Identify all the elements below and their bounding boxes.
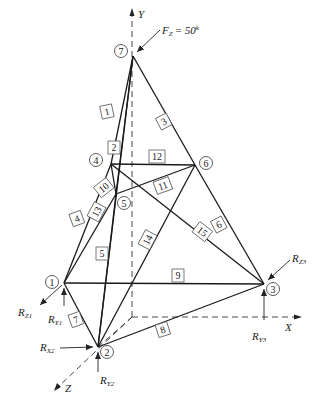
member-labels: 1 2 3 4 5 6 7 8 9 10 11 12 13 14 15 — [68, 104, 227, 338]
node-label-3: 3 — [271, 284, 276, 295]
member-label-5: 5 — [100, 248, 105, 259]
reaction-rz3-label: RZ3 — [291, 252, 307, 266]
reaction-ry3-label: RY3 — [251, 330, 267, 344]
reaction-ry2-label: RY2 — [99, 374, 115, 388]
load-label: FZ= 50k — [161, 24, 200, 38]
space-truss-diagram: Y X Z 1 2 3 4 5 6 7 8 9 10 11 12 13 — [0, 0, 323, 409]
x-axis-label: X — [284, 321, 293, 333]
members — [64, 56, 264, 347]
member-label-9: 9 — [176, 270, 181, 281]
node-label-4: 4 — [94, 155, 99, 166]
reaction-ry1-label: RY1 — [47, 313, 62, 327]
z-axis — [58, 317, 132, 387]
z-axis-label: Z — [65, 382, 72, 394]
reaction-rx2-label: RX2 — [39, 341, 55, 355]
y-axis-label: Y — [138, 8, 146, 20]
reaction-rz3-arrow-icon — [268, 260, 290, 280]
member-label-2: 2 — [112, 142, 117, 153]
node-label-7: 7 — [119, 46, 124, 57]
load-arrow-icon — [137, 30, 160, 52]
reaction-rz1-label: RZ1 — [17, 306, 32, 320]
z-axis-arrow-icon — [54, 383, 61, 391]
member-label-12: 12 — [152, 151, 162, 162]
reactions: RZ1 RY1 RX2 RY2 RZ3 RY3 — [17, 252, 307, 388]
node-labels: 7 4 6 5 1 3 2 — [46, 45, 280, 359]
node-label-5: 5 — [122, 198, 127, 209]
x-axis-arrow-icon — [294, 315, 302, 320]
node-label-1: 1 — [50, 277, 55, 288]
applied-load: FZ= 50k — [137, 24, 200, 52]
node-label-2: 2 — [105, 347, 110, 358]
reaction-rx2-arrow-icon — [60, 347, 93, 348]
y-axis-arrow-icon — [130, 8, 135, 16]
node-label-6: 6 — [204, 158, 209, 169]
